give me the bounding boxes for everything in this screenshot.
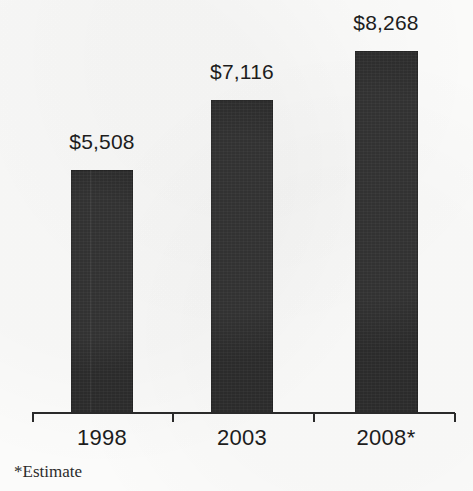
axis-tick-2 [313,413,315,422]
bar-chart-figure: $5,508 $7,116 $8,268 1998 2003 2008* *Es… [0,0,473,491]
bar-2003 [211,100,273,413]
bar-2008 [355,51,418,413]
axis-tick-3 [454,413,456,422]
estimate-footnote: *Estimate [14,462,82,482]
plot-area: $5,508 $7,116 $8,268 [0,0,473,414]
category-label-2008: 2008* [356,425,415,451]
category-label-1998: 1998 [77,425,127,451]
x-axis-line [32,412,455,414]
category-label-2003: 2003 [217,425,267,451]
axis-tick-1 [172,413,174,422]
value-label-2003: $7,116 [210,60,274,84]
value-label-1998: $5,508 [69,130,134,154]
axis-tick-0 [32,413,34,422]
value-label-2008: $8,268 [353,11,418,35]
bar-1998 [71,170,133,413]
